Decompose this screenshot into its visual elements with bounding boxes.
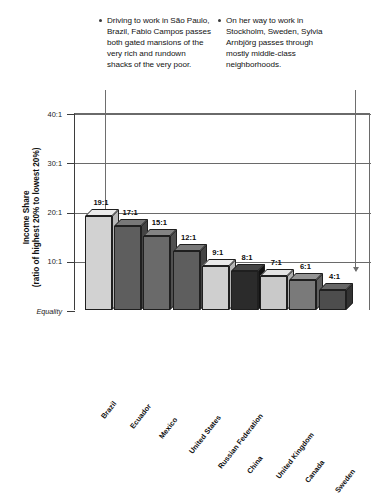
annotation-sweden-text: On her way to work in Stockholm, Sweden,… [218, 15, 328, 70]
bar-value-label: 15:1 [142, 218, 176, 227]
bar: 7:1United Kingdom [260, 276, 287, 310]
x-axis-category-label: United States [187, 413, 223, 455]
bar-front-face [319, 290, 346, 310]
bar-front-face [202, 266, 229, 310]
y-axis-title-main: Income Share [22, 191, 31, 245]
y-axis-label: 10:1 [16, 257, 62, 266]
annotation-brazil-text: Driving to work in São Paulo, Brazil, Fa… [99, 15, 211, 70]
y-axis-label: 40:1 [16, 110, 62, 119]
bar-front-face [85, 216, 112, 310]
bar-value-label: 19:1 [84, 198, 118, 207]
y-axis-label: Equality [16, 307, 62, 316]
bar-value-label: 6:1 [288, 262, 322, 271]
bar-front-face [260, 276, 287, 310]
bar: 9:1Russian Federation [202, 266, 229, 310]
bar-front-face [143, 236, 170, 310]
bar-series: 19:1Brazil17:1Ecuador15:1Mexico12:1Unite… [74, 113, 370, 310]
bar-value-label: 4:1 [318, 272, 352, 281]
y-axis-tick [67, 311, 75, 312]
bar-value-label: 17:1 [113, 208, 147, 217]
bar: 6:1Canada [289, 280, 316, 310]
x-axis-category-label: Ecuador [128, 402, 153, 431]
y-axis-title-sub: (ratio of highest 20% to lowest 20%) [32, 148, 41, 288]
x-axis-category-label: Sweden [333, 468, 357, 495]
x-axis-category-label: China [245, 454, 265, 476]
bar: 4:1Sweden [319, 290, 346, 310]
bar-front-face [289, 280, 316, 310]
bar-front-face [231, 271, 258, 310]
bar: 8:1China [231, 271, 258, 310]
y-axis-label: 30:1 [16, 159, 62, 168]
y-axis-title: Income Share (ratio of highest 20% to lo… [22, 92, 43, 342]
x-axis-category-label: Canada [303, 459, 326, 485]
bar-front-face [173, 251, 200, 310]
y-axis-label: 20:1 [16, 208, 62, 217]
annotation-sweden: On her way to work in Stockholm, Sweden,… [218, 15, 328, 70]
bar: 15:1Mexico [143, 236, 170, 310]
bar: 19:1Brazil [85, 216, 112, 310]
bar: 12:1United States [173, 251, 200, 310]
x-axis-category-label: Mexico [157, 416, 179, 441]
x-axis-category-label: Brazil [99, 400, 118, 421]
bar: 17:1Ecuador [114, 226, 141, 310]
annotation-brazil: Driving to work in São Paulo, Brazil, Fa… [99, 15, 211, 70]
bar-front-face [114, 226, 141, 310]
bar-value-label: 12:1 [172, 233, 206, 242]
